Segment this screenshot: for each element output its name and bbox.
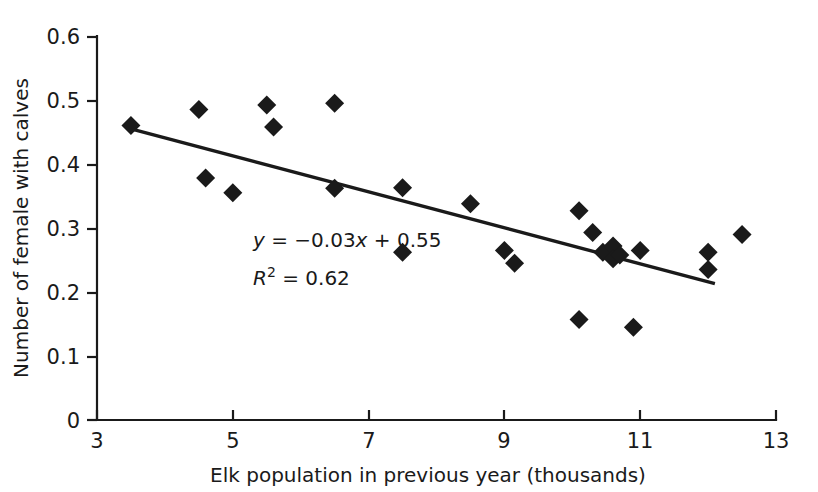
r2-prefix: R [253, 266, 267, 290]
r-squared-label: R2 = 0.62 [253, 264, 350, 290]
x-tick-label-9: 9 [497, 429, 510, 453]
data-point [631, 241, 650, 260]
scatter-chart: 0.6 0.5 0.4 0.3 0.2 0.1 0 3 5 7 9 11 13 … [0, 0, 818, 492]
data-point [495, 241, 514, 260]
data-point [624, 318, 643, 337]
scatter-markers [121, 94, 751, 337]
y-tick-label-0.6: 0.6 [47, 25, 80, 49]
y-axis-title: Number of female with calves [9, 78, 33, 378]
x-tick-label-11: 11 [627, 429, 654, 453]
y-tick-label-0.3: 0.3 [47, 217, 80, 241]
data-point [570, 201, 589, 220]
data-point [461, 194, 480, 213]
x-tick-label-3: 3 [90, 429, 103, 453]
eq-x-var: x [355, 228, 368, 252]
data-point [393, 178, 412, 197]
data-point [264, 117, 283, 136]
data-point [196, 169, 215, 188]
data-point [325, 94, 344, 113]
x-tick-label-7: 7 [362, 429, 375, 453]
y-tick-label-0.4: 0.4 [47, 153, 80, 177]
y-tick-label-0.5: 0.5 [47, 89, 80, 113]
chart-page: 0.6 0.5 0.4 0.3 0.2 0.1 0 3 5 7 9 11 13 … [0, 0, 818, 492]
data-point [699, 260, 718, 279]
eq-suffix: + 0.55 [367, 228, 441, 252]
data-point [257, 96, 276, 115]
trend-line [131, 129, 715, 284]
data-point [699, 243, 718, 262]
x-tick-label-5: 5 [226, 429, 239, 453]
data-point [733, 225, 752, 244]
data-point [570, 310, 589, 329]
r2-suffix: = 0.62 [276, 266, 350, 290]
data-point [505, 254, 524, 273]
y-tick-label-0: 0 [67, 409, 80, 433]
data-point [583, 223, 602, 242]
y-tick-label-0.1: 0.1 [47, 345, 80, 369]
data-point [189, 100, 208, 119]
y-tick-label-0.2: 0.2 [47, 281, 80, 305]
x-tick-label-13: 13 [763, 429, 790, 453]
x-axis-title: Elk population in previous year (thousan… [210, 463, 646, 487]
regression-equation-label: y = −0.03x + 0.55 [252, 228, 441, 252]
eq-body: = −0.03 [265, 228, 356, 252]
data-point [223, 183, 242, 202]
r2-superscript: 2 [267, 264, 276, 280]
